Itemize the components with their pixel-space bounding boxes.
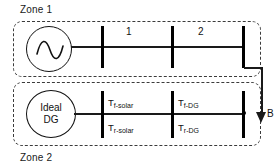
relay-label-t-r-solar: Tr-solar bbox=[108, 122, 134, 134]
relay-subscript: r-solar bbox=[114, 127, 134, 134]
relay-subscript: r-DG bbox=[184, 127, 199, 134]
diagram-canvas: Zone 1 Zone 2 1 2 Ideal DG Tf-solar Tr-s… bbox=[0, 0, 277, 168]
zone-1-label: Zone 1 bbox=[20, 4, 52, 15]
zone-2-feeder-line bbox=[74, 113, 245, 115]
line-section-1-label: 1 bbox=[126, 26, 132, 37]
ideal-dg-symbol: Ideal DG bbox=[26, 90, 76, 138]
relay-subscript: f-solar bbox=[114, 102, 133, 109]
bus-3-top bbox=[242, 26, 245, 68]
bus-1-bottom bbox=[101, 91, 104, 138]
relay-label-t-r-dg: Tr-DG bbox=[178, 122, 199, 134]
ac-source-symbol bbox=[26, 26, 72, 72]
relay-symbol: T bbox=[108, 97, 114, 108]
relay-subscript: f-DG bbox=[184, 102, 199, 109]
ideal-dg-label-line1: Ideal bbox=[27, 102, 75, 113]
flow-arrow-label-b: B bbox=[267, 108, 274, 119]
zone-1-feeder-line bbox=[71, 46, 245, 48]
relay-symbol: T bbox=[108, 122, 114, 133]
down-arrow-icon bbox=[256, 112, 266, 123]
line-section-2-label: 2 bbox=[198, 26, 204, 37]
ideal-dg-label-line2: DG bbox=[27, 114, 75, 125]
relay-symbol: T bbox=[178, 122, 184, 133]
relay-symbol: T bbox=[178, 97, 184, 108]
relay-label-t-f-dg: Tf-DG bbox=[178, 97, 199, 109]
zone-2-label: Zone 2 bbox=[20, 152, 52, 163]
flow-arrow-vertical-segment bbox=[261, 67, 263, 113]
ac-sine-source-icon bbox=[27, 27, 73, 73]
bus-1-top bbox=[101, 26, 104, 68]
bus-3-bottom-node bbox=[242, 111, 246, 115]
bus-2-top bbox=[171, 26, 174, 68]
relay-label-t-f-solar: Tf-solar bbox=[108, 97, 133, 109]
bus-2-bottom bbox=[171, 91, 174, 138]
